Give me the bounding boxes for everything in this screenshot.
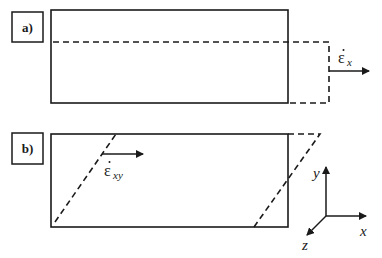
- subscript-x: x: [346, 56, 352, 68]
- original-rectangle-b: [51, 134, 288, 227]
- panel-a: a) ε x: [12, 10, 369, 103]
- panel-a-label: a): [22, 20, 33, 35]
- subscript-xy: xy: [112, 169, 123, 181]
- panel-b-label: b): [22, 141, 34, 156]
- strain-rate-label-x: ε x: [338, 49, 352, 68]
- strain-rate-diagram: a) ε x b) ε xy y x z: [0, 0, 382, 258]
- original-rectangle-a: [51, 10, 288, 103]
- x-axis-label: x: [359, 223, 367, 239]
- deformed-right-edge-b: [254, 134, 320, 227]
- panel-b: b) ε xy: [12, 133, 320, 227]
- z-axis-arrow: [307, 216, 326, 235]
- y-axis-label: y: [311, 165, 320, 181]
- epsilon-symbol: ε: [338, 49, 345, 66]
- epsilon-symbol: ε: [104, 162, 111, 179]
- coordinate-axes: y x z: [301, 165, 367, 253]
- z-axis-label: z: [301, 237, 308, 253]
- strain-rate-label-xy: ε xy: [104, 161, 123, 181]
